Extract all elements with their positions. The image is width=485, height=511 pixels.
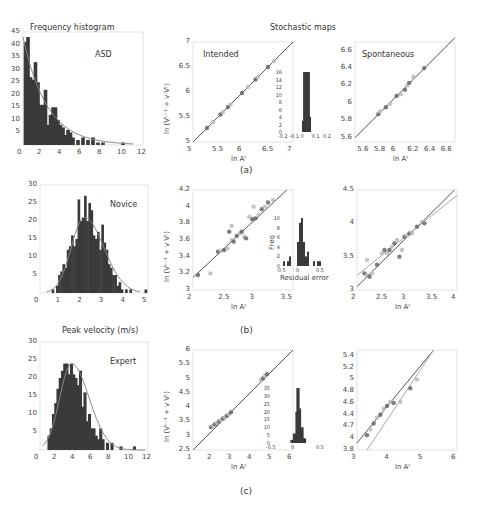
y-tick-label: 30 bbox=[7, 65, 20, 73]
inset-y-tick: 0 bbox=[262, 440, 270, 446]
x-axis-label: ln Aᵗ bbox=[393, 155, 408, 163]
x-tick-label: 6 bbox=[88, 453, 92, 461]
y-tick-label: 40 bbox=[7, 40, 20, 48]
inset-x-tick: 0.5 bbox=[316, 267, 324, 273]
x-tick-label: 4 bbox=[384, 453, 388, 461]
y-tick-label: 6.5 bbox=[177, 62, 190, 70]
x-tick-label: 5.5 bbox=[212, 145, 223, 153]
panel-annotation: ASD bbox=[95, 50, 112, 59]
y-tick-label: 3 bbox=[177, 431, 190, 439]
inset-y-tick: 2 bbox=[274, 122, 282, 128]
y-tick-label: 5 bbox=[24, 427, 37, 435]
y-tick-label: 5 bbox=[177, 137, 190, 145]
y-tick-label: 3 bbox=[177, 285, 190, 293]
map-c-right-plot bbox=[357, 350, 457, 450]
x-tick-label: 6 bbox=[391, 145, 395, 153]
x-axis-label: ln Aᵗ bbox=[231, 463, 246, 471]
y-axis-label: ln (Vᵗ⁻¹ + v Vᵗ) bbox=[163, 83, 171, 134]
inset-y-tick: 6 bbox=[274, 107, 282, 113]
x-axis-label: ln Aᵗ bbox=[395, 303, 410, 311]
y-tick-label: 15 bbox=[7, 102, 20, 110]
x-tick-label: 6 bbox=[287, 453, 291, 461]
x-tick-label: 5 bbox=[267, 453, 271, 461]
y-axis-label: ln (Vᵗ⁻¹ + v Vᵗ) bbox=[163, 231, 171, 282]
y-tick-label: 30 bbox=[24, 180, 37, 188]
y-tick-label: 5 bbox=[24, 270, 37, 278]
x-tick-label: 5 bbox=[142, 296, 146, 304]
x-tick-label: 2.5 bbox=[376, 293, 387, 301]
inset-y-tick: 8 bbox=[272, 225, 280, 231]
y-tick-label: 5 bbox=[341, 374, 354, 382]
inset-y-tick: 14 bbox=[274, 77, 282, 83]
x-tick-label: 5 bbox=[187, 145, 191, 153]
y-tick-label: 6 bbox=[339, 98, 352, 106]
x-tick-label: 4 bbox=[57, 148, 61, 156]
x-tick-label: 6.2 bbox=[407, 145, 418, 153]
inset-x-tick: -0.1 bbox=[289, 133, 299, 139]
y-tick-label: 3.2 bbox=[177, 268, 190, 276]
inset-y-tick: 20 bbox=[262, 409, 270, 415]
inset-x-tick: 0.1 bbox=[312, 133, 320, 139]
x-tick-label: 10 bbox=[124, 453, 133, 461]
x-tick-label: 4 bbox=[247, 453, 251, 461]
hist-asd-plot bbox=[23, 32, 143, 145]
x-axis-label: ln Aᵗ bbox=[231, 155, 246, 163]
row-label-c: (c) bbox=[240, 486, 252, 496]
y-tick-label: 6.4 bbox=[339, 63, 352, 71]
row-label-a: (a) bbox=[240, 165, 253, 175]
residual-inset-histogram bbox=[282, 218, 322, 266]
histogram-column-title: Frequency histogram bbox=[30, 23, 114, 32]
x-tick-label: 6 bbox=[451, 453, 455, 461]
x-tick-label: 8 bbox=[106, 453, 110, 461]
x-tick-label: 2 bbox=[351, 293, 355, 301]
panel-annotation: Intended bbox=[203, 50, 239, 59]
y-tick-label: 4.7 bbox=[341, 421, 354, 429]
y-tick-label: 45 bbox=[7, 27, 20, 35]
y-axis-label: ln (Vᵗ⁻¹ + v Vᵗ) bbox=[163, 391, 171, 442]
x-tick-label: 6.5 bbox=[262, 145, 273, 153]
x-tick-label: 4 bbox=[451, 293, 455, 301]
inset-y-tick: 10 bbox=[274, 92, 282, 98]
y-tick-label: 10 bbox=[24, 409, 37, 417]
x-tick-label: 8 bbox=[97, 148, 101, 156]
y-tick-label: 5 bbox=[177, 374, 190, 382]
y-tick-label: 3.8 bbox=[177, 218, 190, 226]
x-tick-label: 7 bbox=[287, 145, 291, 153]
x-tick-label: 2.5 bbox=[218, 293, 229, 301]
y-tick-label: 4 bbox=[341, 433, 354, 441]
y-tick-label: 3.5 bbox=[177, 416, 190, 424]
inset-y-tick: 4 bbox=[274, 114, 282, 120]
x-tick-label: 6.6 bbox=[441, 145, 452, 153]
x-tick-label: 2 bbox=[207, 453, 211, 461]
x-tick-label: 1 bbox=[187, 453, 191, 461]
x-tick-label: 3 bbox=[250, 293, 254, 301]
inset-y-tick: 16 bbox=[274, 69, 282, 75]
inset-y-tick: 2 bbox=[272, 253, 280, 259]
inset-x-tick: 0 bbox=[291, 444, 294, 450]
y-tick-label: 5.8 bbox=[339, 115, 352, 123]
map-b-right-plot bbox=[357, 190, 457, 290]
x-tick-label: 0 bbox=[17, 148, 21, 156]
peak-velocity-title: Peak velocity (m/s) bbox=[62, 326, 138, 335]
inset-y-tick: 10 bbox=[272, 215, 280, 221]
x-tick-label: 10 bbox=[117, 148, 126, 156]
x-axis-label: ln Aᵗ bbox=[395, 463, 410, 471]
y-tick-label: 25 bbox=[24, 355, 37, 363]
x-tick-label: 4 bbox=[120, 296, 124, 304]
y-tick-label: 4.6 bbox=[341, 398, 354, 406]
inset-y-tick: 5 bbox=[262, 432, 270, 438]
y-tick-label: 4.8 bbox=[341, 386, 354, 394]
y-tick-label: 10 bbox=[24, 252, 37, 260]
inset-y-tick: 35 bbox=[262, 385, 270, 391]
x-tick-label: 12 bbox=[142, 453, 151, 461]
y-tick-label: 5.4 bbox=[341, 351, 354, 359]
residual-inset-histogram bbox=[284, 72, 329, 132]
panel-annotation: Spontaneous bbox=[362, 50, 414, 59]
y-tick-label: 5.2 bbox=[341, 363, 354, 371]
x-tick-label: 3 bbox=[99, 296, 103, 304]
stochastic-maps-title: Stochastic maps bbox=[270, 23, 336, 32]
residual-inset-histogram bbox=[272, 388, 322, 443]
inset-x-label: Residual error bbox=[280, 274, 329, 282]
x-tick-label: 3 bbox=[401, 293, 405, 301]
y-tick-label: 3.8 bbox=[341, 445, 354, 453]
